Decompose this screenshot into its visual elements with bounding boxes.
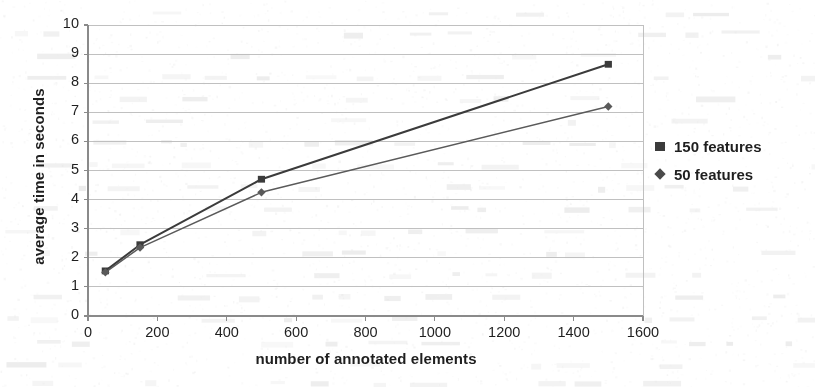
gridlines — [88, 25, 643, 316]
line-chart-figure — [0, 0, 815, 387]
data-series-layer — [101, 61, 612, 277]
tick-marks — [84, 25, 643, 321]
